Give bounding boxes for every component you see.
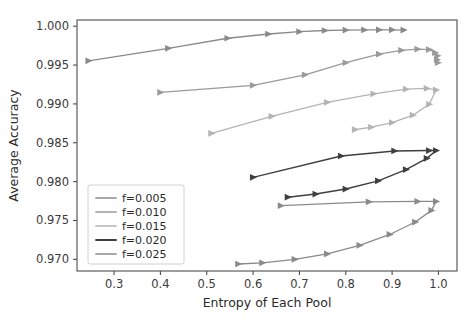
data-point-marker [224,35,231,42]
data-point-marker [376,27,383,34]
y-tick-label: 0.975 [36,213,69,227]
data-point-marker [322,27,329,34]
data-point-marker [313,191,320,198]
data-point-marker [366,198,373,205]
x-tick-label: 1.0 [429,277,447,291]
data-point-marker [235,261,242,268]
data-point-marker [368,124,375,131]
data-point-marker [361,27,368,34]
x-tick-label: 0.8 [337,277,355,291]
data-point-marker [302,71,309,78]
data-point-marker [250,82,257,89]
data-point-marker [375,178,382,185]
legend-label-f0010: f=0.010 [122,206,167,219]
data-point-marker [433,87,440,94]
series-line-f0010 [160,49,438,92]
y-tick-label: 0.970 [36,252,69,266]
legend-label-f0005: f=0.005 [122,192,167,205]
data-point-marker [292,256,299,263]
x-tick-label: 0.3 [105,277,123,291]
data-point-marker [424,85,431,92]
legend-label-f0025: f=0.025 [122,248,167,261]
data-point-marker [296,28,303,35]
x-tick-label: 0.6 [244,277,262,291]
data-point-marker [414,198,421,205]
series-line-f0015 [211,88,436,133]
data-point-marker [285,194,292,201]
y-tick-label: 0.995 [36,58,69,72]
y-tick-label: 1.000 [36,19,69,33]
chart-canvas: 0.30.40.50.60.70.80.91.00.9700.9750.9800… [0,0,474,320]
x-tick-label: 0.4 [151,277,169,291]
data-point-marker [343,186,350,193]
data-point-marker [389,119,396,126]
data-point-marker [433,147,440,154]
data-point-marker [389,27,396,34]
legend-label-f0015: f=0.015 [122,220,167,233]
y-tick-label: 0.990 [36,97,69,111]
data-point-marker [387,231,394,238]
series-line-f0005 [89,30,404,61]
data-point-marker [265,31,272,38]
data-point-marker [208,130,215,137]
data-point-marker [343,27,350,34]
legend-label-f0020: f=0.020 [122,234,167,247]
data-point-marker [338,153,345,160]
x-tick-label: 0.5 [198,277,216,291]
data-point-marker [324,99,331,106]
data-point-marker [268,113,275,120]
data-point-marker [428,207,435,214]
series-line-f0025 [238,201,436,264]
data-point-marker [250,174,257,181]
x-tick-label: 0.7 [290,277,308,291]
data-point-marker [433,198,440,205]
y-axis-title: Average Accuracy [6,89,21,202]
data-point-marker [357,242,364,249]
data-point-marker [352,126,359,133]
data-point-marker [85,57,92,64]
x-tick-label: 0.9 [383,277,401,291]
data-point-marker [157,89,164,96]
data-point-marker [414,46,421,53]
data-point-marker [370,90,377,97]
chart-figure: 0.30.40.50.60.70.80.91.00.9700.9750.9800… [0,0,474,320]
y-tick-label: 0.980 [36,175,69,189]
data-point-marker [376,51,383,58]
data-point-marker [391,148,398,155]
data-point-marker [165,45,172,52]
data-point-marker [324,251,331,258]
y-tick-label: 0.985 [36,136,69,150]
data-point-marker [401,27,408,34]
data-point-marker [398,47,405,54]
data-point-marker [259,259,266,266]
x-axis-title: Entropy of Each Pool [203,295,332,310]
data-point-marker [403,86,410,93]
data-point-marker [343,59,350,66]
data-point-marker [278,202,285,209]
data-point-marker [426,147,433,154]
